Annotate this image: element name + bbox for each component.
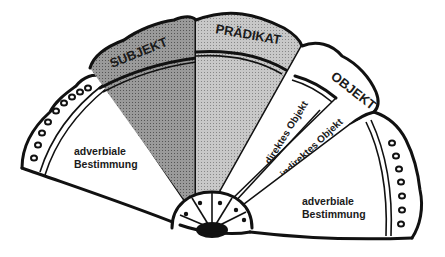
label-adverbiale-left-1: adverbiale: [74, 145, 126, 157]
label-adverbiale-right-1: adverbiale: [302, 195, 354, 207]
label-adverbiale-right-2: Bestimmung: [302, 208, 366, 220]
sentence-parts-fan-diagram: adverbiale Bestimmung SUBJEKT PRÄDIKAT O…: [0, 0, 445, 257]
fan-diagram-svg: adverbiale Bestimmung SUBJEKT PRÄDIKAT O…: [0, 0, 445, 257]
label-adverbiale-left-2: Bestimmung: [74, 158, 138, 170]
